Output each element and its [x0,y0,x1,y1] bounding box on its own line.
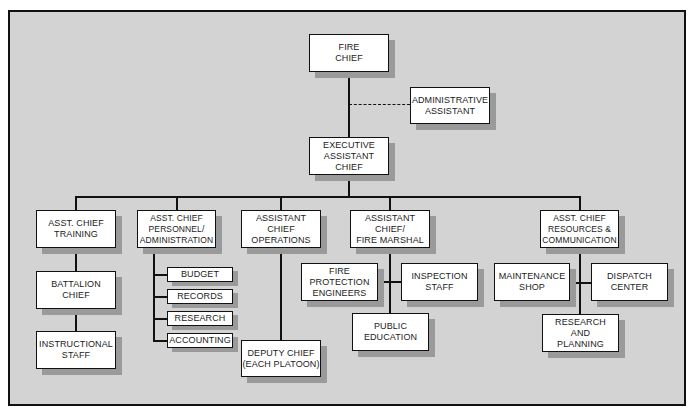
tick-accounting [153,340,167,342]
connector-exec-bus [348,174,350,196]
node-asst-chief-fire-marshal: ASSISTANT CHIEF/ FIRE MARSHAL [350,210,430,248]
node-executive-assistant-chief: EXECUTIVE ASSISTANT CHIEF [309,137,389,175]
drop-training [75,196,77,210]
connector-marshal-cross [377,281,401,283]
tick-records [153,296,167,298]
tick-research [153,318,167,320]
drop-personnel [176,196,178,210]
node-asst-chief-training: ASST. CHIEF TRAINING [36,210,116,248]
dashed-connector-admin [349,104,410,105]
node-fire-protection-engineers: FIRE PROTECTION ENGINEERS [301,263,378,301]
connector-resources-cross [569,282,591,284]
node-budget: BUDGET [167,267,233,282]
node-battalion-chief: BATTALION CHIEF [36,271,116,309]
node-accounting: ACCOUNTING [167,333,233,348]
drop-resources [579,196,581,210]
node-asst-chief-operations: ASSISTANT CHIEF OPERATIONS [241,210,321,248]
node-research: RESEARCH [167,311,233,326]
connector-resources-units [579,248,581,314]
drop-fire-marshal [389,196,391,210]
node-instructional-staff: INSTRUCTIONAL STAFF [36,331,116,369]
connector-operations-deputy [280,248,282,340]
division-bus [75,196,580,198]
node-administrative-assistant: ADMINISTRATIVE ASSISTANT [410,87,490,124]
node-asst-chief-personnel: ASST. CHIEF PERSONNEL/ ADMINISTRATION [137,210,216,248]
node-research-and-planning: RESEARCH AND PLANNING [542,314,619,352]
drop-operations [280,196,282,210]
node-inspection-staff: INSPECTION STAFF [401,263,478,301]
node-public-education: PUBLIC EDUCATION [352,313,429,351]
connector-personnel-units [153,248,155,341]
node-records: RECORDS [167,289,233,304]
node-deputy-chief: DEPUTY CHIEF (EACH PLATOON) [241,340,321,377]
node-dispatch-center: DISPATCH CENTER [591,263,668,301]
node-fire-chief: FIRE CHIEF [309,34,389,72]
node-asst-chief-resources: ASST. CHIEF RESOURCES & COMMUNICATION [540,210,619,248]
tick-budget [153,274,167,276]
node-maintenance-shop: MAINTENANCE SHOP [494,263,570,301]
